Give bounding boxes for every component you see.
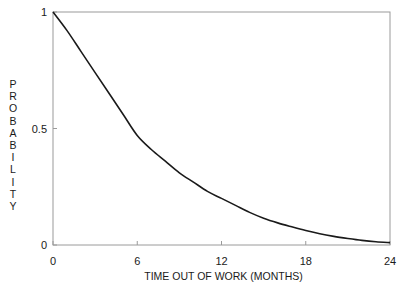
y-axis-title-letter: Y xyxy=(9,200,16,212)
y-axis-title-letter: B xyxy=(9,115,16,127)
y-tick-label: 0.5 xyxy=(32,123,47,135)
y-tick-label: 0 xyxy=(41,239,47,251)
y-tick-label: 1 xyxy=(41,6,47,18)
y-axis-title-letter: R xyxy=(9,90,17,102)
x-tick-label: 6 xyxy=(134,255,140,267)
y-axis-title-letter: P xyxy=(9,78,16,90)
x-tick-label: 0 xyxy=(50,255,56,267)
y-axis-title-letter: O xyxy=(9,102,17,114)
y-axis-title: PROBABILITY xyxy=(9,78,17,212)
probability-curve xyxy=(53,12,390,243)
x-tick-label: 24 xyxy=(384,255,396,267)
y-axis-title-letter: T xyxy=(10,188,17,200)
x-tick-label: 12 xyxy=(215,255,227,267)
y-axis-title-letter: I xyxy=(12,151,15,163)
y-axis-title-letter: A xyxy=(9,127,16,139)
chart-canvas: 06121824 00.51 TIME OUT OF WORK (MONTHS)… xyxy=(0,0,404,288)
plot-frame xyxy=(53,12,390,245)
y-axis-title-letter: B xyxy=(9,139,16,151)
y-axis-title-letter: L xyxy=(10,163,16,175)
x-axis-title: TIME OUT OF WORK (MONTHS) xyxy=(144,270,302,282)
x-tick-label: 18 xyxy=(300,255,312,267)
y-axis-title-letter: I xyxy=(12,176,15,188)
